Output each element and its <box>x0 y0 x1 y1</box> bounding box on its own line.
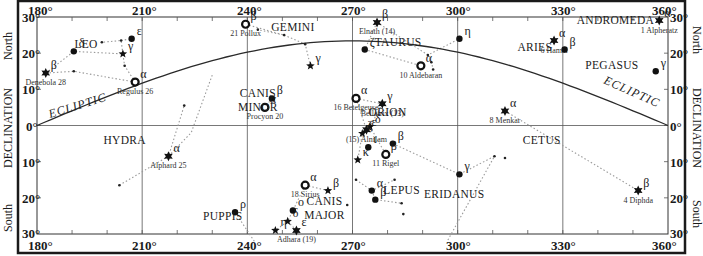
greek-letter: α <box>510 96 517 110</box>
faint-star-icon <box>400 202 403 205</box>
faint-star-icon <box>346 204 349 207</box>
greek-letter: γ <box>386 89 393 103</box>
greek-letter: γ <box>660 56 667 70</box>
ra-bottom-330: 330° <box>551 238 576 253</box>
ra-top-240: 240° <box>237 3 262 18</box>
star-6point-icon <box>634 186 643 196</box>
star-name-label: (15) Alnilam <box>346 135 388 144</box>
star-dot-icon <box>128 36 134 42</box>
constellation-label-eridanus: ERIDANUS <box>424 188 485 200</box>
constellation-label-puppis: PUPPIS <box>203 210 243 222</box>
dec-right-n30: 30° <box>670 10 688 25</box>
star-6point-icon <box>41 68 50 78</box>
faint-star-icon <box>73 70 76 73</box>
bright-star-ring-icon <box>353 95 360 102</box>
dec-left-n30: 30° <box>22 10 40 25</box>
right-south-label: South <box>690 200 703 228</box>
star-menkar: α8 Menkar <box>490 96 521 125</box>
star-5point-icon <box>306 61 315 69</box>
dec-right-s10: 10° <box>670 155 688 170</box>
star-name-label: 21 Pollux <box>230 29 261 38</box>
star-6point-icon <box>373 17 382 27</box>
star-name-label: 1 Alpheratz <box>641 26 679 35</box>
dec-right-s20: 20° <box>670 191 688 206</box>
greek-letter: β <box>382 7 388 21</box>
greek-letter: α <box>140 67 147 81</box>
greek-letter: η <box>464 24 470 38</box>
star-dot-icon <box>456 36 462 42</box>
star-chart-canvas: βDenebola 28δγεαRegulus 26β21 PolluxγβEl… <box>0 0 703 256</box>
star-5point-icon <box>324 186 333 194</box>
ra-top-330: 330° <box>551 3 576 18</box>
bright-star-ring-icon <box>302 182 309 189</box>
faint-star-icon <box>101 41 104 44</box>
outer-frame <box>18 1 685 253</box>
greek-letter: η <box>280 215 286 229</box>
greek-letter: α <box>173 141 180 155</box>
ra-top-270: 270° <box>341 3 366 18</box>
greek-letter: α <box>361 83 368 97</box>
ra-top-300: 300° <box>446 3 471 18</box>
star-dot-icon <box>653 68 659 74</box>
faint-star-icon <box>118 184 121 187</box>
ra-bottom-300: 300° <box>446 238 471 253</box>
star-aldebaran: α10 Aldebaran <box>399 51 442 80</box>
star-name-label: 4 Diphda <box>623 196 653 205</box>
faint-star-icon <box>355 178 358 181</box>
ra-bottom-270: 270° <box>341 238 366 253</box>
star-6point-icon <box>501 106 510 116</box>
faint-star-icon <box>183 104 186 107</box>
greek-letter: β <box>570 35 576 49</box>
greek-letter: β <box>277 83 283 97</box>
bright-star-ring-icon <box>417 62 424 69</box>
faint-star-icon <box>393 178 396 181</box>
star-5point-icon <box>353 155 362 163</box>
constellation-label-taurus: TAURUS <box>375 36 422 48</box>
greek-letter: ε <box>137 24 142 38</box>
dec-right-n10: 10° <box>670 82 688 97</box>
constellation-line <box>284 35 310 66</box>
greek-letter: β <box>333 176 339 190</box>
constellation-label-pegasus: PEGASUS <box>585 59 638 71</box>
constellation-label-gemini: GEMINI <box>271 21 314 33</box>
constellation-label-leo: LEO <box>74 38 97 50</box>
greek-letter: β <box>391 139 397 153</box>
left-declination-label: DECLINATION <box>1 88 15 168</box>
greek-letter: β <box>51 58 57 72</box>
bright-star-ring-icon <box>242 21 249 28</box>
star-5point-icon <box>119 49 128 57</box>
left-north-label: North <box>1 32 15 60</box>
greek-letter: α <box>426 51 433 65</box>
star-eri-gamma: γ <box>456 159 470 177</box>
star-cma-eta: η <box>271 215 287 234</box>
bottom-ra-labels: 180° 210° 240° 270° 300° 330° 360° <box>28 238 677 253</box>
right-declination-label: DECLINATION <box>690 88 703 168</box>
star-name-label: 10 Aldebaran <box>399 71 442 80</box>
dec-left-s20: 20° <box>22 191 40 206</box>
greek-letter: κ <box>363 145 369 159</box>
left-south-label: South <box>1 204 15 232</box>
ra-bottom-210: 210° <box>132 238 157 253</box>
star-5point-icon <box>271 226 280 234</box>
star-alphard: αAlphard 25 <box>150 141 186 170</box>
constellation-label-lepus: LEPUS <box>383 184 420 196</box>
constellation-line <box>102 41 123 54</box>
constellation-label-cetus: CETUS <box>523 134 561 146</box>
faint-star-icon <box>493 155 496 158</box>
faint-star-icon <box>120 39 123 42</box>
dec-left-s30: 30° <box>22 226 40 241</box>
faint-star-icon <box>402 213 405 216</box>
greek-letter: α <box>310 170 317 184</box>
star-diphda: β4 Diphda <box>623 176 653 205</box>
star-peg-gamma: γ <box>653 56 667 74</box>
greek-letter: γ <box>314 51 321 65</box>
star-tau-zeta: ζ <box>362 35 375 53</box>
faint-star-icon <box>304 43 307 46</box>
dec-right-0: 0° <box>670 119 682 134</box>
star-chart: βDenebola 28δγεαRegulus 26β21 PolluxγβEl… <box>0 0 703 256</box>
star-dot-icon <box>456 171 462 177</box>
constellation-label-aries: ARIES <box>517 41 552 53</box>
star-name-label: Procyon 20 <box>247 112 284 121</box>
dec-left-n10: 10° <box>22 82 40 97</box>
bright-star-ring-icon <box>132 79 139 86</box>
